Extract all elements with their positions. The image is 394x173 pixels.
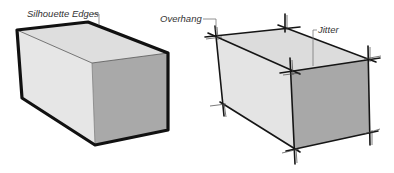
silhouette-edges-label: Silhouette Edges (27, 9, 99, 19)
overhang-leader-line (203, 19, 216, 30)
overhang-label: Overhang (160, 14, 202, 24)
jitter-label: Jitter (318, 25, 339, 35)
edge-style-diagram: Silhouette Edges Overhang Jitter (0, 0, 394, 173)
